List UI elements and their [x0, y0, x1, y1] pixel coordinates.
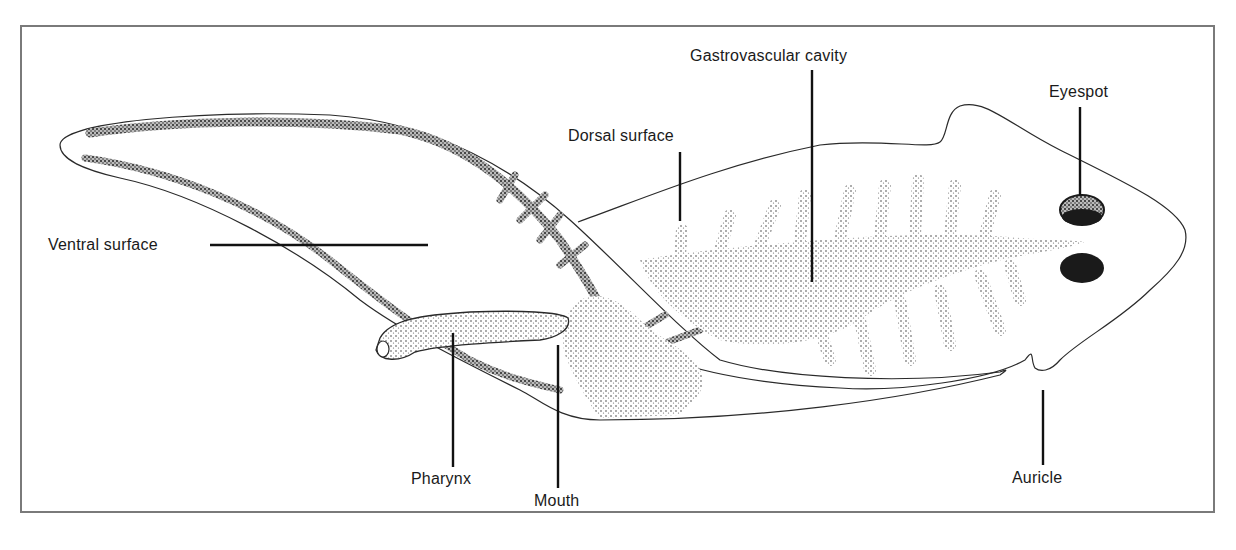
label-pharynx: Pharynx	[411, 470, 471, 488]
label-dorsal-surface: Dorsal surface	[568, 127, 674, 145]
pharynx-opening	[377, 341, 389, 357]
label-mouth: Mouth	[534, 492, 579, 510]
label-ventral-surface: Ventral surface	[48, 236, 158, 254]
label-eyespot: Eyespot	[1049, 83, 1108, 101]
label-auricle: Auricle	[1012, 469, 1062, 487]
eyespot-lower	[1060, 253, 1104, 283]
label-gastrovascular-cavity: Gastrovascular cavity	[690, 47, 847, 65]
gut-branch-upper	[90, 122, 610, 330]
gut-branch-lower	[85, 158, 560, 390]
